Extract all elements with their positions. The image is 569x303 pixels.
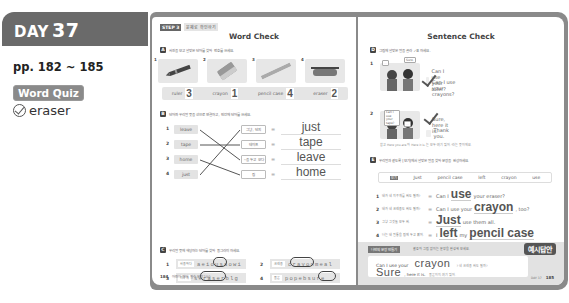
sentence-row-4: 4 나는 내 필통을 집에 두고 왔어. = Ileftmypencil cas… (376, 229, 566, 241)
sentence-blank[interactable]: left (439, 227, 457, 240)
section-e-header: E 우리말과 같도록 [보기]에서 알맞은 말을 찾아 문장을 완성하세요. (370, 157, 469, 163)
step-text: 문제로 확인하기 (184, 23, 217, 31)
word-search-2: 2 크레용 crayonmeal (260, 259, 340, 269)
match-answer[interactable]: home (281, 165, 341, 180)
section-instruction: 우리말 뜻에 해당하는 단어를 찾아 동그라미 하세요. (169, 248, 240, 253)
left-page-footer: 184어린이 영어 필수 문장 150 (160, 274, 211, 279)
left-page: STEP 3 문제로 확인하기 Word Check A 사진을 보고 알맞은 … (152, 17, 356, 285)
ruler-icon (261, 62, 292, 79)
workbook-spread: DAY37 pp. 182 ~ 185 Word Quiz eraser STE… (0, 0, 569, 303)
section-instruction: 그림에 알맞은 말을 골라 ✓표 하세요. (379, 48, 431, 53)
example-answer-badge: 예시답안 (524, 243, 556, 255)
match-row: 2 tape 테이프 = tape (166, 140, 356, 150)
section-instruction: 사진을 보고 알맞은 단어를 찾아 번호를 쓰세요. (169, 48, 234, 53)
word-quiz-badge: Word Quiz (13, 85, 84, 101)
my-sentence-box: 나만의 문장 만들기 괄호와 그림 없이는 문장을 완성해 보세요. 예시답안 … (358, 242, 564, 285)
right-page-footer: DAY 37185 (531, 275, 554, 280)
picture-2: 2 (207, 59, 247, 83)
page-title: Word Check (152, 32, 356, 41)
sentence-blank[interactable]: use (451, 188, 472, 201)
right-page: Sentence Check D 그림에 알맞은 말을 골라 ✓표 하세요. 1… (358, 17, 564, 285)
section-letter: D (370, 47, 376, 53)
section-instruction: 단어와 우리말 뜻을 선으로 연결하고, 빈칸에 단어를 쓰세요. (169, 112, 251, 117)
match-row: 1 leave 그냥, 단지 = just (166, 125, 356, 135)
quiz-item-eraser[interactable]: eraser (13, 103, 70, 118)
answer-pencil-case: pencil case4 (258, 88, 294, 99)
section-c-header: C 우리말 뜻에 해당하는 단어를 찾아 동그라미 하세요. (160, 247, 240, 253)
section-instruction: 우리말과 같도록 [보기]에서 알맞은 말을 찾아 문장을 완성하세요. (379, 158, 469, 163)
crayon-icon (165, 64, 191, 79)
match-word: leave (174, 125, 198, 134)
step-badge: STEP 3 문제로 확인하기 (160, 23, 218, 31)
answer-circle[interactable] (290, 257, 314, 267)
checkbox[interactable] (426, 130, 431, 137)
section-letter: A (160, 47, 166, 53)
day-number: 37 (52, 19, 79, 41)
answer-ruler: ruler3 (172, 88, 193, 99)
word-bank: 보기 Just pencil case left crayon use (378, 172, 552, 183)
eraser-icon (216, 61, 237, 80)
picture-1: 1 (158, 59, 198, 83)
section-letter: B (160, 111, 166, 117)
match-row: 3 home ~을 두고 오다 = leave (166, 155, 356, 165)
book: STEP 3 문제로 확인하기 Word Check A 사진을 보고 알맞은 … (150, 12, 568, 290)
match-answer[interactable]: leave (281, 150, 341, 165)
box-tag: 나만의 문장 만들기 (368, 246, 400, 253)
kids-illustration-icon (380, 63, 420, 91)
picture-row: 1 2 3 4 (158, 59, 345, 83)
word-search-4: 4 물론 popebsure (260, 273, 340, 283)
picture-4: 4 (305, 59, 345, 83)
step-label: STEP 3 (160, 24, 181, 31)
option-thank-you[interactable]: Thank you. (426, 127, 451, 139)
sentence-blank[interactable]: crayon (474, 201, 513, 214)
answer-strip: ruler3 crayon1 pencil case4 eraser2 (162, 87, 348, 100)
quiz-word: eraser (29, 103, 70, 118)
pencil-case-icon (311, 66, 339, 76)
match-word: just (174, 170, 198, 179)
section-a-header: A 사진을 보고 알맞은 단어를 찾아 번호를 쓰세요. (160, 47, 234, 53)
answer-circle[interactable] (318, 271, 336, 281)
box-instruction: 괄호와 그림 없이는 문장을 완성해 보세요. (413, 247, 470, 251)
note-text: 참고 Here you are.와 Here it is.는 모두 '여기 있어… (380, 143, 472, 147)
match-row: 4 just 집 = home (166, 170, 356, 180)
match-answer[interactable]: just (281, 120, 341, 135)
day-tab: DAY37 (2, 12, 148, 46)
picture-3: 3 (256, 59, 296, 83)
section-d-header: D 그림에 알맞은 말을 골라 ✓표 하세요. (370, 47, 431, 53)
section-b-header: B 단어와 우리말 뜻을 선으로 연결하고, 빈칸에 단어를 쓰세요. (160, 111, 251, 117)
page-title: Sentence Check (358, 32, 564, 41)
section-letter: E (370, 157, 376, 163)
check-circle-icon (13, 104, 26, 117)
matching-lines (200, 125, 250, 185)
match-word: home (174, 155, 198, 164)
section-letter: C (160, 247, 166, 253)
sentence-blank[interactable]: pencil case (469, 227, 534, 240)
page-range: pp. 182 ~ 185 (13, 60, 104, 74)
day-label: DAY (14, 23, 49, 41)
answer-eraser: eraser2 (313, 88, 338, 99)
word-search-1: 1 사용하다 aeiousaowi (166, 259, 246, 269)
match-answer[interactable]: tape (281, 135, 341, 150)
match-word: tape (174, 140, 198, 149)
answer-crayon: crayon1 (212, 88, 238, 99)
answer-area[interactable]: Can I use your crayon ? 네 크레용 써도 될까? Sur… (368, 256, 528, 277)
answer-circle[interactable] (213, 257, 227, 267)
scene-image (380, 63, 420, 91)
